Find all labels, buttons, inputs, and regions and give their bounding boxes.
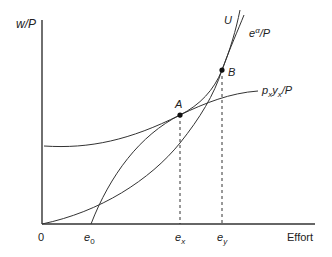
point-a-label: A [174,98,182,110]
revenue-label: pxyx/P [261,84,293,99]
y-axis-label: w/P [16,17,36,31]
point-a-marker [177,112,182,117]
u-curve [91,10,240,224]
effort-cost-label: eα/P [249,26,271,39]
revenue-curve [44,91,258,147]
effort-cost-curve [42,15,244,224]
tick-ex: ex [175,231,186,246]
point-b-marker [219,67,224,72]
tick-ey: ey [217,231,228,246]
x-axis-label: Effort [287,231,313,243]
point-b-label: B [228,66,235,78]
origin-label: 0 [38,231,44,243]
u-curve-label: U [224,14,232,26]
effort-wage-diagram: w/P 0 Effort e0 ex ey A B U eα/P pxyx/P [0,0,332,257]
tick-e0: e0 [84,231,95,246]
